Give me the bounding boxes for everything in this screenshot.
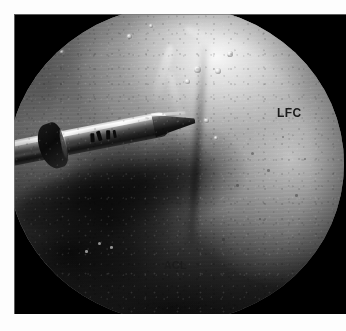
arthroscope-circular-field: LFC ACL (14, 14, 344, 314)
arthroscopy-image-page: LFC ACL (0, 0, 346, 331)
endoscope-black-frame: LFC ACL (14, 14, 346, 314)
annotation-label-lfc: LFC (277, 106, 302, 120)
annotation-label-acl: ACL (164, 259, 187, 271)
